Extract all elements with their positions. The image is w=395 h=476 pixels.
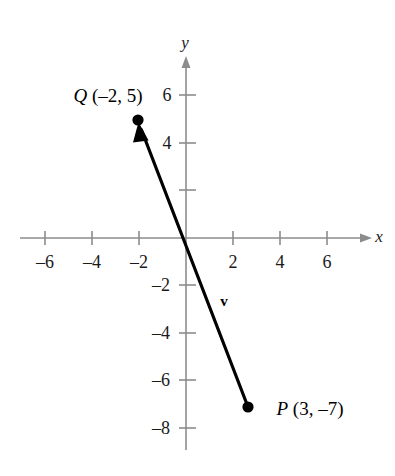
point-q-coords: (–2, 5) bbox=[92, 85, 143, 106]
x-tick-label-6: 6 bbox=[323, 253, 332, 271]
y-tick-label-4: 4 bbox=[163, 134, 172, 152]
point-q-label: Q (–2, 5) bbox=[73, 86, 142, 105]
y-tick-label--6: –6 bbox=[152, 371, 170, 389]
x-tick-label--6: –6 bbox=[36, 253, 54, 271]
y-tick-label--8: –8 bbox=[152, 419, 170, 437]
y-tick-label--4: –4 bbox=[152, 324, 170, 342]
coordinate-plane-figure: –6 –4 –2 2 4 6 6 4 –2 –4 –6 –8 x y Q (–2… bbox=[0, 0, 395, 476]
x-tick-label-4: 4 bbox=[276, 253, 285, 271]
point-p-name: P bbox=[276, 398, 288, 419]
x-axis-label: x bbox=[375, 228, 383, 245]
point-p-coords: (3, –7) bbox=[293, 398, 344, 419]
y-axis-label: y bbox=[181, 34, 189, 51]
point-q-marker bbox=[132, 114, 143, 125]
x-tick-label-2: 2 bbox=[229, 253, 238, 271]
x-tick-label--2: –2 bbox=[130, 253, 148, 271]
point-p-label: P (3, –7) bbox=[276, 399, 343, 418]
vector-v-label: v bbox=[220, 294, 228, 309]
x-axis bbox=[20, 231, 372, 245]
y-tick-label-6: 6 bbox=[163, 86, 172, 104]
x-tick-label--4: –4 bbox=[83, 253, 101, 271]
y-tick-label--2: –2 bbox=[152, 276, 170, 294]
point-p-marker bbox=[242, 401, 253, 412]
point-q-name: Q bbox=[73, 85, 87, 106]
